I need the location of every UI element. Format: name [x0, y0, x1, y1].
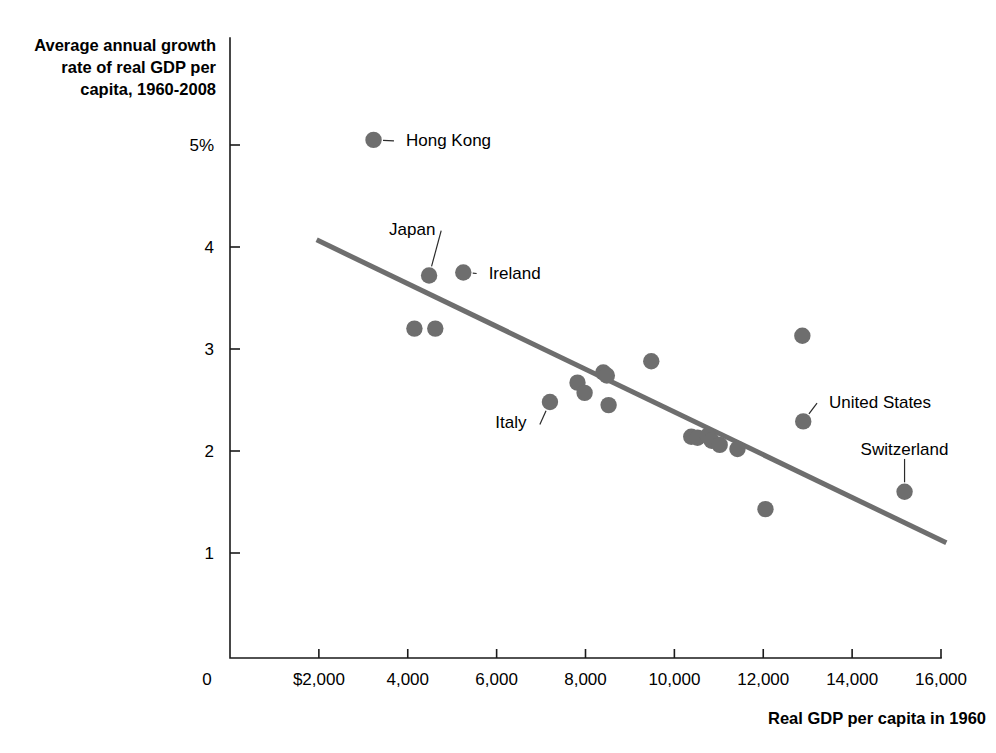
point-label-ireland: Ireland: [489, 264, 541, 283]
data-point: [576, 385, 592, 401]
data-point: [599, 367, 615, 383]
y-tick-label: 3: [205, 340, 214, 359]
data-point: [757, 501, 773, 517]
data-point-hong-kong: [365, 132, 381, 148]
x-tick-label: 16,000: [915, 670, 967, 689]
leader-line: [540, 411, 546, 425]
data-point: [643, 353, 659, 369]
data-point: [427, 320, 443, 336]
y-axis-title: Average annual growthrate of real GDP pe…: [34, 36, 216, 98]
x-tick-label: $2,000: [293, 670, 345, 689]
trendline-segment: [317, 240, 947, 543]
y-tick-label: 5%: [189, 136, 214, 155]
y-axis-ticks: 5%4321: [189, 136, 240, 563]
chart-canvas: Average annual growthrate of real GDP pe…: [0, 0, 996, 753]
data-point: [712, 437, 728, 453]
leader-line: [809, 403, 817, 414]
point-label-japan: Japan: [389, 220, 435, 239]
y-axis-title-line: capita, 1960-2008: [80, 80, 216, 98]
axis-lines: [230, 38, 941, 658]
data-point: [794, 328, 810, 344]
point-label-united-states: United States: [829, 393, 931, 412]
x-tick-label: 0: [202, 670, 211, 689]
data-point: [729, 441, 745, 457]
x-axis-title-text: Real GDP per capita in 1960: [768, 709, 986, 727]
x-tick-label: 8,000: [564, 670, 607, 689]
data-point-japan: [421, 267, 437, 283]
data-point-switzerland: [896, 484, 912, 500]
point-label-italy: Italy: [495, 413, 527, 432]
x-tick-label: 6,000: [475, 670, 518, 689]
data-point-ireland: [455, 264, 471, 280]
scatter-chart: Average annual growthrate of real GDP pe…: [0, 0, 996, 753]
x-tick-label: 12,000: [737, 670, 789, 689]
y-axis-title-line: rate of real GDP per: [61, 58, 216, 76]
y-axis-title-line: Average annual growth: [34, 36, 216, 54]
trendline: [317, 240, 947, 543]
axis-frame: [230, 38, 941, 658]
point-label-switzerland: Switzerland: [861, 440, 949, 459]
data-point-united-states: [795, 413, 811, 429]
leader-line: [383, 140, 394, 141]
x-axis-ticks: 0$2,0004,0006,0008,00010,00012,00014,000…: [202, 649, 967, 689]
point-label-hong-kong: Hong Kong: [406, 131, 491, 150]
y-tick-label: 2: [205, 442, 214, 461]
data-point-italy: [542, 394, 558, 410]
x-tick-label: 4,000: [386, 670, 429, 689]
y-tick-label: 4: [205, 238, 214, 257]
data-point: [406, 320, 422, 336]
x-tick-label: 14,000: [826, 670, 878, 689]
x-tick-label: 10,000: [648, 670, 700, 689]
data-points: [365, 132, 912, 518]
x-axis-title: Real GDP per capita in 1960: [768, 709, 986, 727]
data-point: [600, 397, 616, 413]
y-tick-label: 1: [205, 544, 214, 563]
